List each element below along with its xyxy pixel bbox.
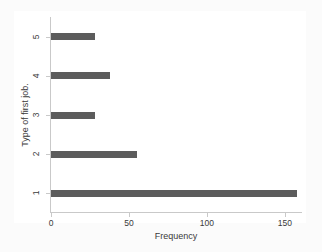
y-axis-tick-label: 3 — [31, 113, 41, 118]
x-axis-tick-label: 0 — [49, 218, 54, 228]
x-axis-title: Frequency — [155, 231, 198, 241]
bar-row — [51, 72, 110, 79]
x-axis-tick-label: 100 — [200, 218, 214, 228]
x-axis-tick-label: 50 — [124, 218, 133, 228]
x-axis-tick — [207, 213, 208, 217]
bar — [51, 151, 137, 158]
bar-row — [51, 190, 297, 197]
bar — [51, 190, 297, 197]
bar — [51, 72, 110, 79]
bar — [51, 112, 95, 119]
y-axis-tick — [46, 76, 50, 77]
x-axis-tick — [51, 213, 52, 217]
y-axis-title: Type of first job. — [20, 83, 30, 147]
x-axis-tick — [285, 213, 286, 217]
bar-chart-figure: Type of first job. Frequency 05010015012… — [0, 0, 322, 252]
y-axis-tick — [46, 193, 50, 194]
bar-row — [51, 112, 95, 119]
bar-row — [51, 151, 137, 158]
y-axis-tick — [46, 115, 50, 116]
x-axis-tick-label: 150 — [278, 218, 292, 228]
y-axis-tick-label: 2 — [31, 152, 41, 157]
bar-row — [51, 33, 95, 40]
y-axis-tick-label: 4 — [31, 73, 41, 78]
y-axis-tick-label: 5 — [31, 34, 41, 39]
y-axis-tick-label: 1 — [31, 191, 41, 196]
x-axis-tick — [129, 213, 130, 217]
y-axis-tick — [46, 154, 50, 155]
bar — [51, 33, 95, 40]
y-axis-tick — [46, 37, 50, 38]
